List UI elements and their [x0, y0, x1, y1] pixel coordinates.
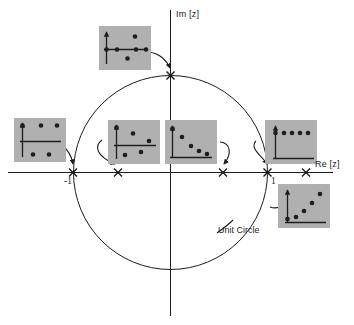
- leader-to-pole-imaginary: [148, 52, 170, 68]
- tick-label-minus-one: -1: [64, 177, 72, 187]
- inset-alternating-decay: [108, 120, 160, 164]
- inset-alternating-constant: [14, 118, 66, 162]
- inset-growing-exponential: [278, 184, 330, 228]
- tick-label-plus-one: 1: [271, 177, 276, 187]
- axis-label-imaginary: Im [z]: [176, 10, 199, 19]
- unit-circle-label: Unit Circle: [218, 226, 260, 235]
- z-plane-canvas: [0, 0, 354, 325]
- inset-constant-step: [265, 120, 317, 164]
- z-plane-figure: Im [z] Re [z] -1 1 Unit Circle: [0, 0, 354, 325]
- inset-decaying-exponential: [165, 120, 217, 164]
- leader-to-pole-inside-positive: [220, 142, 229, 164]
- inset-oscillating-constant: [99, 26, 151, 70]
- axis-label-real: Re [z]: [315, 160, 340, 169]
